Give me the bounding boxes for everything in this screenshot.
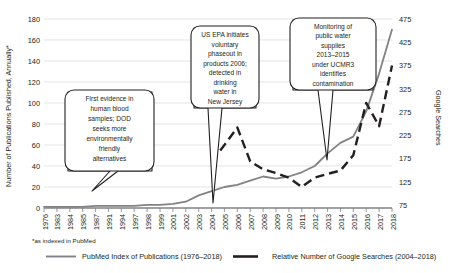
callout-epa-phaseout: US EPA initiates voluntary phaseout in p… [191, 26, 259, 203]
y2tick-125: 125 [399, 178, 411, 187]
ytick-180: 180 [28, 15, 40, 24]
x-axis-labels: 1976 1983 1984 1985 1987 1991 1994 1997 … [41, 214, 398, 230]
callout-epa-phaseout-line-6: water in [212, 88, 236, 95]
xtick-1984: 1984 [66, 214, 75, 230]
xtick-2012: 2012 [311, 214, 320, 230]
callout-epa-phaseout-line-0: US EPA initiates [201, 31, 249, 38]
callout-ucmr3-line-2: supplies [321, 42, 346, 50]
callout-first-evidence-line-5: friendly [99, 145, 121, 153]
y2tick-325: 325 [399, 85, 411, 94]
xtick-2005: 2005 [221, 214, 230, 230]
y2tick-425: 425 [399, 38, 411, 47]
y-axis-right-labels: 475 425 375 325 275 225 175 125 75 [399, 15, 411, 210]
callout-epa-phaseout-line-3: products 2006; [203, 60, 247, 68]
xtick-2008: 2008 [260, 214, 269, 230]
callout-epa-phaseout-line-2: phaseout in [208, 50, 242, 58]
callout-first-evidence-line-4: environmentally [86, 135, 133, 143]
y2tick-225: 225 [399, 131, 411, 140]
xtick-1983: 1983 [53, 214, 62, 230]
ytick-100: 100 [28, 99, 40, 108]
xtick-2003: 2003 [195, 214, 204, 230]
y2tick-75: 75 [399, 201, 407, 210]
callout-epa-phaseout-line-5: drinking [213, 79, 236, 87]
callout-first-evidence-line-0: First evidence in [85, 95, 133, 102]
chart-canvas: 180 160 140 120 100 80 60 40 20 0 475 42… [0, 0, 467, 273]
ytick-80: 80 [32, 120, 40, 129]
chart-legend: PubMed Index of Publications (1976–2018)… [46, 252, 436, 261]
callout-first-evidence: First evidence in human blood samples; D… [65, 90, 154, 191]
ytick-120: 120 [28, 78, 40, 87]
callout-ucmr3: Monitoring of public water supplies 2013… [290, 18, 376, 160]
chart-footnote: *as indexed in PubMed [32, 237, 96, 244]
y-axis-right-title: Google Searches [434, 90, 443, 146]
callout-first-evidence-line-2: samples; DOD [88, 115, 131, 123]
xtick-2004: 2004 [208, 214, 217, 230]
xtick-2011: 2011 [298, 214, 307, 229]
y2tick-275: 275 [399, 108, 411, 117]
callout-ucmr3-line-4: under UCMR3 [312, 61, 354, 68]
y2tick-175: 175 [399, 154, 411, 163]
xtick-1985: 1985 [79, 214, 88, 230]
callout-ucmr3-line-6: contamination [312, 80, 353, 87]
xtick-1997: 1997 [131, 214, 140, 230]
callout-ucmr3-line-5: identifies [320, 70, 347, 77]
xtick-1994: 1994 [118, 214, 127, 230]
ytick-40: 40 [32, 162, 40, 171]
xtick-1976: 1976 [41, 214, 50, 230]
callout-ucmr3-line-1: public water [315, 32, 351, 40]
xtick-2013: 2013 [324, 214, 333, 230]
callout-epa-phaseout-line-4: detected in [209, 69, 242, 76]
legend-label-pubmed: PubMed Index of Publications (1976–2018) [82, 252, 222, 261]
xtick-2010: 2010 [285, 214, 294, 230]
chart-figure: 180 160 140 120 100 80 60 40 20 0 475 42… [0, 0, 467, 273]
callout-first-evidence-line-6: alternatives [93, 155, 127, 162]
xtick-2016: 2016 [363, 214, 372, 230]
y2tick-375: 375 [399, 61, 411, 70]
ytick-20: 20 [32, 183, 40, 192]
callout-epa-phaseout-line-7: New Jersey [208, 98, 243, 106]
ytick-160: 160 [28, 36, 40, 45]
ytick-60: 60 [32, 141, 40, 150]
ytick-140: 140 [28, 57, 40, 66]
callout-ucmr3-line-3: 2013–2015 [316, 51, 349, 58]
xtick-2009: 2009 [273, 214, 282, 230]
callout-epa-phaseout-box [191, 26, 259, 108]
xtick-1999: 1999 [157, 214, 166, 230]
xtick-2015: 2015 [350, 214, 359, 230]
xtick-2006: 2006 [234, 214, 243, 230]
xtick-2007: 2007 [247, 214, 256, 230]
xtick-1998: 1998 [144, 214, 153, 230]
xtick-1991: 1991 [105, 214, 114, 230]
callout-ucmr3-line-0: Monitoring of [314, 23, 352, 31]
callout-first-evidence-line-1: human blood [90, 105, 128, 112]
xtick-1987: 1987 [92, 214, 101, 230]
ytick-0: 0 [36, 204, 40, 213]
xtick-2014: 2014 [337, 214, 346, 230]
xtick-2018: 2018 [389, 214, 398, 230]
callout-first-evidence-line-3: seeks more [92, 125, 126, 132]
callout-epa-phaseout-line-1: voluntary [212, 41, 239, 49]
y2tick-475: 475 [399, 15, 411, 24]
xtick-2001: 2001 [169, 214, 178, 230]
xtick-2002: 2002 [182, 214, 191, 230]
xtick-2017: 2017 [376, 214, 385, 230]
y-axis-left-title: Number of Publications Published, Annual… [4, 45, 13, 187]
legend-label-google: Relative Number of Google Searches (2004… [272, 252, 436, 261]
y-axis-left-labels: 180 160 140 120 100 80 60 40 20 0 [28, 15, 40, 213]
